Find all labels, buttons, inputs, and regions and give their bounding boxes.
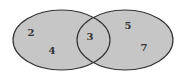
element-7: 7 xyxy=(141,42,148,53)
venn-diagram: 2 4 3 5 7 xyxy=(0,0,182,76)
element-5: 5 xyxy=(125,20,132,31)
element-4: 4 xyxy=(49,45,56,56)
element-2: 2 xyxy=(28,27,35,38)
element-3: 3 xyxy=(87,31,94,42)
